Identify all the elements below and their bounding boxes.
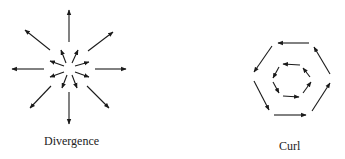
divergence-label: Divergence [44,134,99,149]
divergence-field [12,10,126,124]
curl-field [254,43,330,115]
curl-label: Curl [279,139,300,154]
